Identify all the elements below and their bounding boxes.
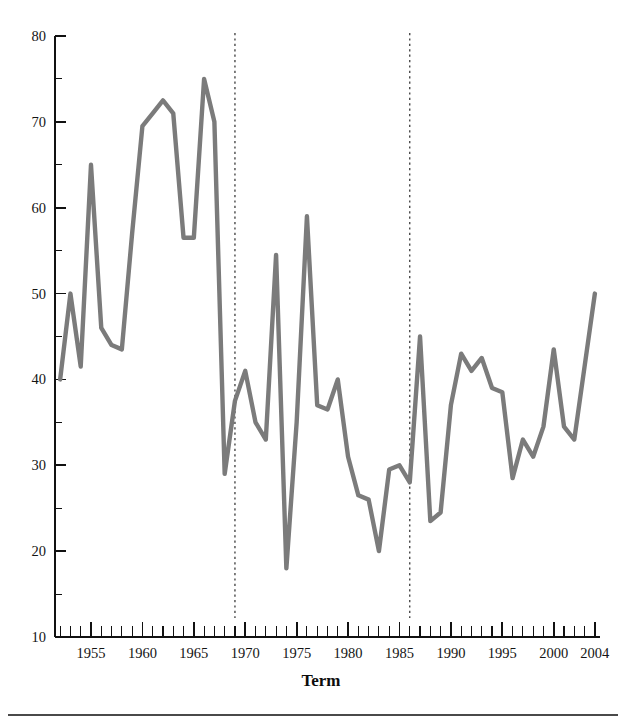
x-tick-label: 2000: [539, 645, 568, 661]
y-tick-label: 80: [32, 28, 47, 44]
data-series-line: [60, 79, 595, 568]
y-axis: 8070605040302010: [32, 28, 67, 645]
x-tick-label: 1995: [488, 645, 517, 661]
x-tick-label: 1970: [231, 645, 260, 661]
x-axis-ticks: [60, 622, 595, 637]
x-axis-title: Term: [301, 671, 340, 690]
x-tick-label: 2004: [580, 645, 610, 661]
x-axis: 1955196019651970197519801985199019952000…: [55, 622, 610, 690]
y-tick-label: 70: [32, 114, 47, 130]
x-axis-tick-labels: 1955196019651970197519801985199019952000…: [76, 645, 610, 661]
y-tick-label: 30: [32, 457, 47, 473]
x-tick-label: 1960: [128, 645, 157, 661]
x-tick-label: 1985: [385, 645, 414, 661]
y-tick-label: 20: [32, 543, 47, 559]
x-tick-label: 1980: [334, 645, 363, 661]
x-tick-label: 1955: [76, 645, 105, 661]
y-tick-label: 10: [32, 629, 47, 645]
line-chart-svg: 8070605040302010 19551960196519701975198…: [0, 0, 626, 724]
x-tick-label: 1965: [179, 645, 208, 661]
y-tick-label: 50: [32, 286, 47, 302]
y-axis-tick-labels: 8070605040302010: [32, 28, 47, 645]
y-tick-label: 60: [32, 200, 47, 216]
chart-figure: 8070605040302010 19551960196519701975198…: [0, 0, 626, 724]
x-tick-label: 1975: [282, 645, 311, 661]
x-tick-label: 1990: [436, 645, 465, 661]
y-tick-label: 40: [32, 371, 47, 387]
